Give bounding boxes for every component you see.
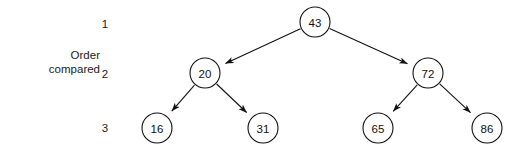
edge-43-to-72 (330, 29, 408, 64)
nodes-group: 43207216316586 (142, 7, 502, 143)
tree-node-72: 72 (413, 58, 443, 88)
tree-node-86: 86 (472, 113, 502, 143)
node-value-16: 16 (151, 123, 164, 135)
edge-72-to-65 (393, 85, 417, 112)
node-value-43: 43 (309, 17, 322, 29)
tree-node-31: 31 (248, 113, 278, 143)
tree-node-65: 65 (363, 113, 393, 143)
node-value-31: 31 (257, 123, 270, 135)
edge-43-to-20 (225, 29, 300, 64)
node-value-72: 72 (422, 68, 435, 80)
tree-node-16: 16 (142, 113, 172, 143)
node-value-20: 20 (199, 68, 212, 80)
edge-20-to-16 (172, 85, 195, 111)
binary-search-tree-figure: Order compared 123 43207216316586 (0, 0, 516, 156)
edge-72-to-86 (440, 84, 471, 113)
tree-node-20: 20 (190, 58, 220, 88)
edge-20-to-31 (217, 84, 247, 113)
node-value-65: 65 (372, 123, 385, 135)
tree-node-43: 43 (300, 7, 330, 37)
tree-graphic: 43207216316586 (0, 0, 516, 156)
node-value-86: 86 (481, 123, 494, 135)
